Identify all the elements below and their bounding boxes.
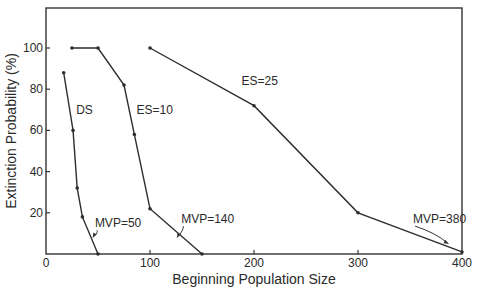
data-point — [200, 252, 204, 256]
y-tick-label: 60 — [30, 123, 44, 137]
data-point — [356, 211, 360, 215]
y-tick-label: 20 — [30, 206, 44, 220]
data-point — [252, 104, 256, 108]
data-point — [460, 250, 464, 254]
data-point — [133, 133, 137, 137]
series-label: ES=25 — [242, 74, 279, 88]
data-point — [148, 207, 152, 211]
data-point — [62, 71, 66, 75]
mvp-label: MVP=50 — [95, 216, 142, 230]
series-line — [64, 73, 98, 254]
data-point — [75, 186, 79, 190]
mvp-annotations: DSMVP=50ES=10MVP=140ES=25MVP=380 — [76, 74, 466, 244]
data-point — [96, 252, 100, 256]
data-point — [70, 46, 74, 50]
x-tick-label: 200 — [244, 256, 264, 270]
y-tick-label: 80 — [30, 82, 44, 96]
data-point — [71, 129, 75, 133]
data-point — [96, 46, 100, 50]
x-axis-title: Beginning Population Size — [172, 271, 336, 287]
y-tick-label: 40 — [30, 165, 44, 179]
mvp-label: MVP=380 — [413, 212, 466, 226]
y-tick-label: 100 — [23, 41, 43, 55]
x-tick-label: 400 — [452, 256, 472, 270]
x-tick-label: 300 — [348, 256, 368, 270]
series-label: DS — [76, 103, 93, 117]
data-point — [148, 46, 152, 50]
mvp-label: MVP=140 — [181, 212, 234, 226]
extinction-probability-chart: 010020030040020406080100 DSMVP=50ES=10MV… — [0, 0, 477, 293]
data-point — [81, 215, 85, 219]
x-tick-label: 100 — [140, 256, 160, 270]
y-axis-title: Extinction Probability (%) — [3, 53, 19, 209]
x-tick-label: 0 — [43, 256, 50, 270]
data-point — [122, 83, 126, 87]
series-label: ES=10 — [136, 103, 173, 117]
